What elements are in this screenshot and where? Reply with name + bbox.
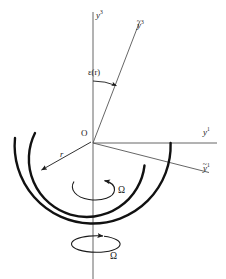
axis-label-y1-tilde-superscript: 1	[207, 162, 210, 168]
tilt-angle-arc-group	[93, 81, 116, 86]
axis-line-y3-tilde-tilted	[93, 22, 140, 143]
axis-rotation-arrow-group	[72, 236, 121, 253]
omega-inner-label: Ω	[118, 186, 125, 196]
axis-label-y3-tilde-superscript: 3	[141, 19, 144, 25]
diagram-canvas	[0, 0, 226, 279]
technical-diagram: y3 ~y3 y1 ~y1 O ε(r) r Ω Ω	[0, 0, 226, 279]
axis-label-y1-superscript: 1	[207, 126, 210, 132]
tilde-accent-y1: ~y	[203, 164, 207, 173]
axis-label-y1-tilde: ~y1	[203, 164, 210, 173]
tilde-glyph-y3: ~	[137, 18, 141, 26]
tilt-angle-label: ε(r)	[88, 68, 100, 77]
radius-label: r	[60, 150, 63, 159]
radius-arrow-group	[42, 142, 92, 170]
tilde-accent-y3: ~y	[137, 21, 141, 30]
tilt-angle-arc	[93, 81, 116, 86]
axis-label-y1: y1	[203, 128, 210, 137]
axis-label-y3-superscript: 3	[100, 9, 103, 15]
axis-rotation-ellipse	[72, 236, 121, 252]
radius-arrow	[42, 142, 92, 170]
axes-group	[93, 12, 217, 279]
axis-line-y1-tilde-tilted	[93, 143, 209, 173]
shell-inner-arc	[29, 133, 145, 217]
origin-label: O	[81, 129, 88, 138]
omega-axis-label: Ω	[110, 252, 117, 262]
axis-label-y3-tilde: ~y3	[137, 21, 144, 30]
tilde-glyph-y1: ~	[203, 161, 207, 169]
axis-label-y3: y3	[96, 11, 103, 20]
